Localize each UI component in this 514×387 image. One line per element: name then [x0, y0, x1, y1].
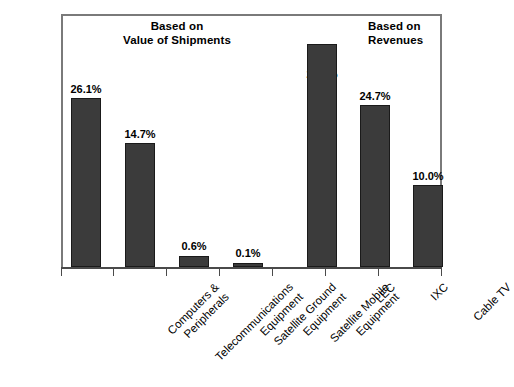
x-axis-tick [378, 269, 379, 276]
x-axis-tick [272, 269, 273, 276]
x-axis-line [61, 267, 442, 269]
panel-title-revenues: Based on Revenues [368, 20, 468, 47]
bar-lec [307, 44, 337, 267]
x-axis-tick [325, 269, 326, 276]
bar-value-satellite-mobile-equipment: 0.1% [218, 247, 278, 259]
bar-telecommunications-equipment [125, 143, 155, 267]
x-axis-tick [441, 269, 442, 276]
panel-title-value-of-shipments: Based on Value of Shipments [84, 20, 270, 47]
x-axis-tick [113, 269, 114, 276]
bar-value-cable-tv: 10.0% [398, 170, 458, 182]
x-axis-tick [166, 269, 167, 276]
bar-computers-peripherals [71, 98, 101, 267]
bar-value-ixc: 24.7% [345, 90, 405, 102]
bar-cable-tv [413, 185, 443, 267]
x-axis-tick [61, 269, 62, 276]
bar-value-computers-peripherals: 26.1% [56, 83, 116, 95]
x-axis-tick [219, 269, 220, 276]
bar-satellite-ground-equipment [179, 256, 209, 267]
x-axis-label-cable-tv: Cable TV [455, 280, 514, 339]
x-axis-label-ixc: IXC [399, 280, 451, 332]
bar-ixc [360, 105, 390, 267]
bar-value-satellite-ground-equipment: 0.6% [164, 240, 224, 252]
bar-value-telecommunications-equipment: 14.7% [110, 128, 170, 140]
